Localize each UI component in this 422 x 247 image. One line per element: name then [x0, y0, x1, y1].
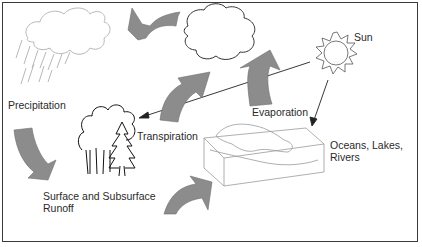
arrow-transpiration-icon [160, 72, 210, 122]
arrow-precipitation-icon [14, 128, 56, 180]
runoff-label-line2: Runoff [43, 202, 74, 214]
evaporation-label: Evaporation [252, 106, 308, 118]
water-body-icon [204, 124, 324, 186]
sun-label: Sun [354, 31, 373, 43]
transpiration-label: Transpiration [137, 130, 198, 142]
runoff-label-line1: Surface and Subsurface [43, 190, 156, 202]
rain-cloud-icon [16, 8, 110, 84]
arrow-evaporation-icon [240, 50, 280, 106]
precipitation-label: Precipitation [8, 99, 66, 111]
water-label-line1: Oceans, Lakes, [330, 139, 403, 151]
sun-icon [316, 32, 357, 74]
trees-icon [78, 105, 135, 176]
arrow-runoff-icon [164, 176, 212, 214]
arrow-condensation-icon [128, 8, 180, 40]
water-label-line2: Rivers [330, 151, 360, 163]
white-cloud-icon [184, 4, 255, 60]
